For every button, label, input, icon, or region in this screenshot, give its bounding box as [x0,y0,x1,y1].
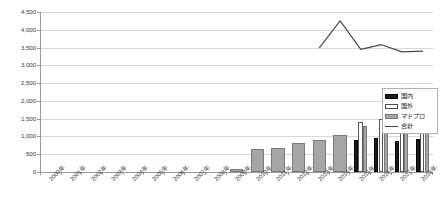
legend-label-foreign: 国外 [401,103,413,109]
x-axis-tick-mark [40,172,41,175]
y-axis-tick-label: 2,500 [2,80,36,86]
total-line-series [41,12,433,172]
legend-item-foreign[interactable]: 国外 [385,101,435,111]
legend-swatch-total-icon [385,124,398,129]
legend-item-madopuro[interactable]: マドプロ [385,111,435,121]
y-axis-tick-label: 1,500 [2,116,36,122]
y-axis-tick-label: 1,000 [2,133,36,139]
legend-item-total[interactable]: 合計 [385,121,435,131]
y-axis-tick-label: 3,000 [2,62,36,68]
legend-label-madopuro: マドプロ [401,113,425,119]
chart-legend: 国内 国外 マドプロ 合計 [382,88,438,134]
y-axis-tick-label: 4,500 [2,9,36,15]
chart-container: 4,5004,0003,5003,0002,5002,0001,5001,000… [0,0,440,214]
legend-item-domestic[interactable]: 国内 [385,91,435,101]
legend-label-domestic: 国内 [401,93,413,99]
y-axis-tick-label: 500 [2,151,36,157]
y-axis-tick-label: 3,500 [2,45,36,51]
y-axis-tick-label: 4,000 [2,27,36,33]
legend-label-total: 合計 [401,123,413,129]
legend-swatch-domestic-icon [385,94,398,99]
total-line-path [320,21,423,52]
plot-area [40,12,433,173]
y-axis-tick-label: 0 [2,169,36,175]
y-axis-tick-label: 2,000 [2,98,36,104]
legend-swatch-foreign-icon [385,104,398,109]
legend-swatch-madopuro-icon [385,114,398,119]
